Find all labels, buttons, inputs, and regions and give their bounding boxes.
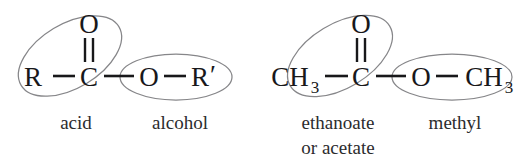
atom-label-carbonyl-oxygen-2: O xyxy=(351,9,371,39)
caption-methyl: methyl xyxy=(429,112,482,133)
caption-ethanoate-line1: ethanoate xyxy=(302,112,375,133)
molecule-methyl-ethanoate: CH 3 C O O CH 3 ethanoate or acetate met… xyxy=(271,0,513,158)
atom-label-r-prime: R xyxy=(191,62,209,92)
caption-acid: acid xyxy=(60,112,92,133)
subscript-methyl-right: 3 xyxy=(505,78,514,97)
acid-ellipse xyxy=(5,0,136,113)
caption-ethanoate-line2: or acetate xyxy=(301,137,374,158)
caption-alcohol: alcohol xyxy=(152,112,208,133)
atom-label-methyl-right: CH xyxy=(465,62,503,92)
atom-label-methyl-left: CH xyxy=(271,62,309,92)
prime-mark-icon: ′ xyxy=(210,60,216,90)
atom-label-ester-oxygen: O xyxy=(139,62,159,92)
diagram-canvas: R C O O R ′ acid alcohol CH 3 C xyxy=(0,0,530,165)
molecule-generic-ester: R C O O R ′ acid alcohol xyxy=(5,0,232,133)
atom-label-r: R xyxy=(24,62,42,92)
atom-label-ester-oxygen-2: O xyxy=(411,62,431,92)
subscript-methyl-left: 3 xyxy=(311,78,320,97)
atom-label-carbonyl-oxygen: O xyxy=(79,9,99,39)
atom-label-carbonyl-carbon-2: C xyxy=(352,62,370,92)
atom-label-carbonyl-carbon: C xyxy=(80,62,98,92)
ester-structure-diagram: R C O O R ′ acid alcohol CH 3 C xyxy=(0,0,530,165)
ethanoate-ellipse xyxy=(274,0,406,113)
